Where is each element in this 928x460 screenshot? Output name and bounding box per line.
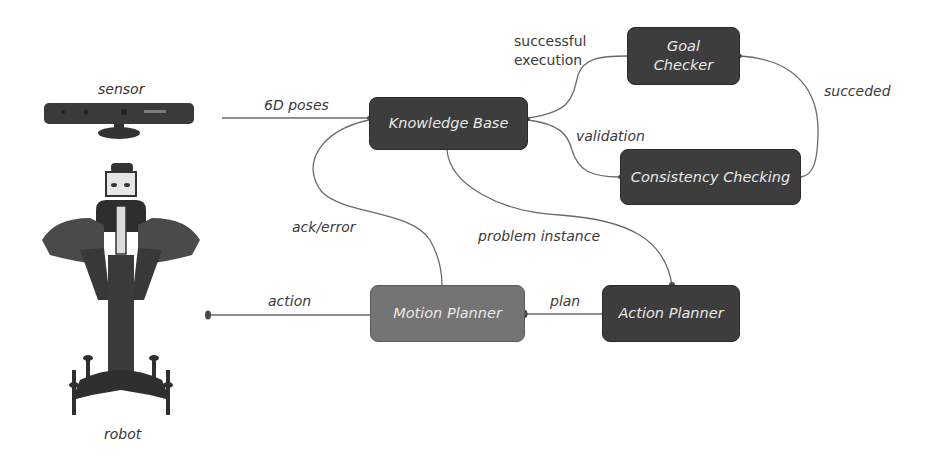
edge-label-execution: execution — [514, 51, 582, 69]
edge-label-problem-instance: problem instance — [478, 227, 600, 245]
node-knowledge-base-label: Knowledge Base — [389, 114, 509, 133]
node-motion-planner-label: Motion Planner — [393, 304, 502, 323]
edge-label-action: action — [268, 292, 311, 310]
edge-label-6d-poses: 6D poses — [264, 96, 329, 114]
edge-label-ack-error: ack/error — [292, 218, 356, 236]
architecture-diagram: sensor robot Knowledge Base Goal Checker… — [0, 0, 928, 460]
robot-icon — [42, 163, 200, 415]
node-action-planner: Action Planner — [602, 285, 740, 342]
edge-label-successful: successful — [514, 32, 586, 50]
robot-label: robot — [104, 425, 141, 443]
node-consistency-checking-label: Consistency Checking — [631, 168, 790, 187]
node-motion-planner: Motion Planner — [370, 285, 525, 342]
edge-action-endpoint-icon — [205, 311, 211, 320]
edges-layer — [0, 0, 928, 460]
node-goal-checker-label-line1: Goal — [667, 37, 700, 56]
node-consistency-checking: Consistency Checking — [620, 149, 801, 205]
edge-label-succeded: succeded — [824, 82, 891, 100]
edge-label-validation: validation — [576, 127, 645, 145]
edge-label-plan: plan — [550, 292, 580, 310]
sensor-device-icon — [44, 103, 194, 139]
sensor-label: sensor — [98, 80, 144, 98]
node-goal-checker: Goal Checker — [627, 27, 740, 85]
node-goal-checker-label-line2: Checker — [654, 56, 714, 75]
node-action-planner-label: Action Planner — [618, 304, 723, 323]
node-knowledge-base: Knowledge Base — [369, 97, 528, 150]
